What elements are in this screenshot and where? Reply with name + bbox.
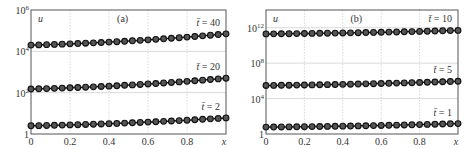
data-marker	[114, 120, 120, 126]
data-marker	[348, 81, 354, 87]
data-marker	[153, 81, 159, 87]
data-marker	[348, 30, 354, 36]
data-marker	[278, 124, 284, 130]
data-marker	[309, 82, 315, 88]
data-marker	[294, 124, 300, 130]
data-marker	[447, 79, 453, 85]
data-marker	[263, 124, 269, 130]
data-marker	[371, 123, 377, 129]
data-marker	[59, 85, 65, 91]
y-tick-label: 106	[16, 4, 30, 16]
x-axis-label: x	[221, 136, 227, 147]
data-marker	[83, 122, 89, 128]
data-marker	[130, 38, 136, 44]
data-marker	[130, 82, 136, 88]
data-marker	[363, 81, 369, 87]
data-marker	[378, 29, 384, 35]
data-marker	[75, 41, 81, 47]
data-marker	[378, 81, 384, 87]
series-curve	[263, 78, 461, 88]
data-marker	[317, 30, 323, 36]
data-marker	[286, 82, 292, 88]
y-tick-label: 1	[259, 129, 264, 140]
data-marker	[302, 31, 308, 37]
data-marker	[75, 85, 81, 91]
data-marker	[106, 121, 112, 127]
data-marker	[348, 123, 354, 129]
data-marker	[36, 86, 42, 92]
y-tick-label: 102	[16, 87, 30, 99]
data-marker	[36, 42, 42, 48]
data-marker	[294, 82, 300, 88]
x-tick-label: 0	[264, 136, 269, 147]
data-marker	[215, 32, 221, 38]
data-marker	[192, 78, 198, 84]
data-marker	[401, 122, 407, 128]
y-tick-label: 1012	[247, 22, 265, 34]
data-marker	[371, 30, 377, 36]
data-marker	[440, 28, 446, 34]
data-marker	[302, 82, 308, 88]
data-marker	[294, 31, 300, 37]
data-marker	[386, 122, 392, 128]
chart-b-svg: 00.20.40.60.8x11041081012u(b)t̄ = 10t̄ =…	[235, 0, 469, 149]
data-marker	[44, 86, 50, 92]
chart-panel-b: 00.20.40.60.8x11041081012u(b)t̄ = 10t̄ =…	[235, 0, 469, 149]
data-marker	[67, 85, 73, 91]
data-marker	[286, 124, 292, 130]
data-marker	[137, 37, 143, 43]
data-marker	[122, 38, 128, 44]
data-marker	[208, 32, 214, 38]
data-marker	[192, 117, 198, 123]
y-tick-label: 1	[24, 129, 29, 140]
data-marker	[91, 121, 97, 127]
data-marker	[455, 121, 461, 127]
data-marker	[59, 122, 65, 128]
data-marker	[200, 33, 206, 39]
y-tick-label: 108	[251, 57, 265, 69]
data-marker	[223, 115, 229, 121]
data-marker	[424, 122, 430, 128]
data-marker	[130, 120, 136, 126]
data-marker	[394, 122, 400, 128]
data-marker	[184, 117, 190, 123]
y-axis-label: u	[38, 13, 43, 24]
data-marker	[137, 120, 143, 126]
data-marker	[184, 34, 190, 40]
data-marker	[200, 116, 206, 122]
panel-label: (a)	[117, 13, 128, 25]
data-marker	[417, 122, 423, 128]
data-marker	[401, 80, 407, 86]
data-marker	[145, 81, 151, 87]
data-marker	[325, 124, 331, 130]
data-marker	[114, 39, 120, 45]
data-marker	[432, 28, 438, 34]
data-marker	[332, 30, 338, 36]
data-marker	[83, 40, 89, 46]
panel-label: (b)	[350, 13, 362, 25]
data-marker	[278, 31, 284, 37]
data-marker	[355, 30, 361, 36]
data-marker	[145, 37, 151, 43]
data-marker	[137, 82, 143, 88]
data-marker	[271, 124, 277, 130]
data-marker	[75, 122, 81, 128]
data-marker	[176, 79, 182, 85]
data-marker	[309, 124, 315, 130]
data-marker	[317, 124, 323, 130]
data-marker	[355, 81, 361, 87]
data-marker	[145, 119, 151, 125]
data-marker	[278, 82, 284, 88]
data-marker	[332, 123, 338, 129]
chart-panel-a: 00.20.40.60.8x1102104106u(a)t̄ = 40t̄ = …	[0, 0, 235, 149]
data-marker	[215, 115, 221, 121]
x-tick-label: 0.8	[413, 136, 426, 147]
series-label: t̄ = 20	[197, 61, 220, 72]
data-marker	[394, 29, 400, 35]
data-marker	[409, 80, 415, 86]
data-marker	[325, 82, 331, 88]
data-marker	[114, 83, 120, 89]
data-marker	[447, 28, 453, 34]
x-tick-label: 0.4	[103, 136, 116, 147]
data-marker	[67, 122, 73, 128]
